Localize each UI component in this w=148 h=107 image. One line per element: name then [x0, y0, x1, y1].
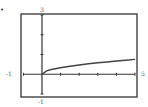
function-curve	[42, 59, 135, 74]
axes	[23, 15, 135, 94]
x-min-label: -1	[6, 70, 12, 77]
y-min-label: -1	[38, 98, 44, 105]
graph: -1 5 3 -1	[0, 0, 148, 107]
viewing-window-frame	[21, 14, 137, 97]
tick-marks	[23, 15, 135, 94]
x-max-label: 5	[141, 70, 145, 77]
y-max-label: 3	[40, 6, 44, 13]
